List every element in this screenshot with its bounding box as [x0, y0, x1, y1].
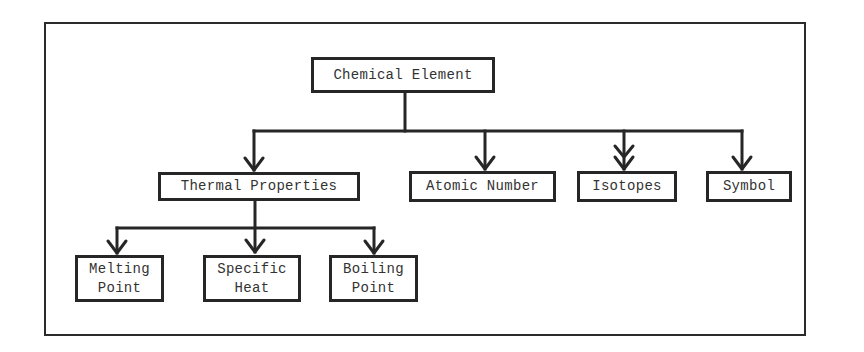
node-specific-heat: Specific Heat: [203, 255, 301, 302]
node-thermal-properties: Thermal Properties: [158, 172, 360, 201]
node-atomic-number: Atomic Number: [409, 171, 556, 202]
node-boiling-point: Boiling Point: [329, 255, 418, 302]
node-chemical-element: Chemical Element: [311, 57, 495, 93]
node-symbol: Symbol: [706, 171, 792, 202]
node-melting-point: Melting Point: [75, 255, 164, 302]
node-isotopes: Isotopes: [577, 171, 677, 202]
